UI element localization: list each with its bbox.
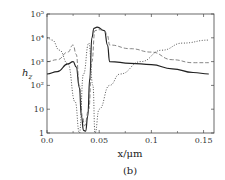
y-tick-label: 10 xyxy=(34,105,44,114)
y-axis-label: hz xyxy=(22,67,32,81)
series-dotted-line xyxy=(47,38,209,133)
curves xyxy=(47,27,209,133)
chart: 0.00.050.10.15 11010²10³10⁴10⁵ x/μm hz (… xyxy=(0,0,225,180)
x-tick-label: 0.05 xyxy=(90,136,108,145)
x-tick-label: 0.1 xyxy=(145,136,158,145)
y-tick-label: 10² xyxy=(31,81,44,90)
y-axis-ticks: 11010²10³10⁴10⁵ xyxy=(31,10,214,138)
x-axis-ticks: 0.00.050.10.15 xyxy=(41,14,213,145)
x-tick-label: 0.15 xyxy=(195,136,213,145)
plot-border xyxy=(47,14,214,133)
y-tick-label: 10⁵ xyxy=(31,10,44,19)
panel-label: (b) xyxy=(123,165,137,176)
plot-frame xyxy=(47,14,214,133)
x-axis-label: x/μm xyxy=(118,148,144,159)
y-tick-label: 10³ xyxy=(31,58,44,67)
y-tick-label: 1 xyxy=(39,129,44,138)
y-tick-label: 10⁴ xyxy=(31,34,44,43)
